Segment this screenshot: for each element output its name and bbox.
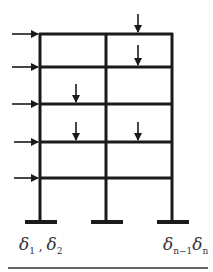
subscript: n−1 [173, 246, 192, 256]
delta-symbol: δ [192, 234, 202, 254]
subscript: n [203, 246, 209, 256]
separator: , [35, 239, 46, 253]
delta-symbol: δ [19, 234, 29, 254]
displacement-label-right: δn−1δn [163, 234, 208, 256]
subscript: 2 [57, 246, 63, 256]
frame-structure [39, 33, 173, 222]
lateral-loads [12, 34, 38, 178]
delta-symbol: δ [46, 234, 56, 254]
displacement-label-left: δ1 , δ2 [19, 234, 62, 256]
delta-symbol: δ [163, 234, 173, 254]
frame-diagram [0, 0, 213, 272]
